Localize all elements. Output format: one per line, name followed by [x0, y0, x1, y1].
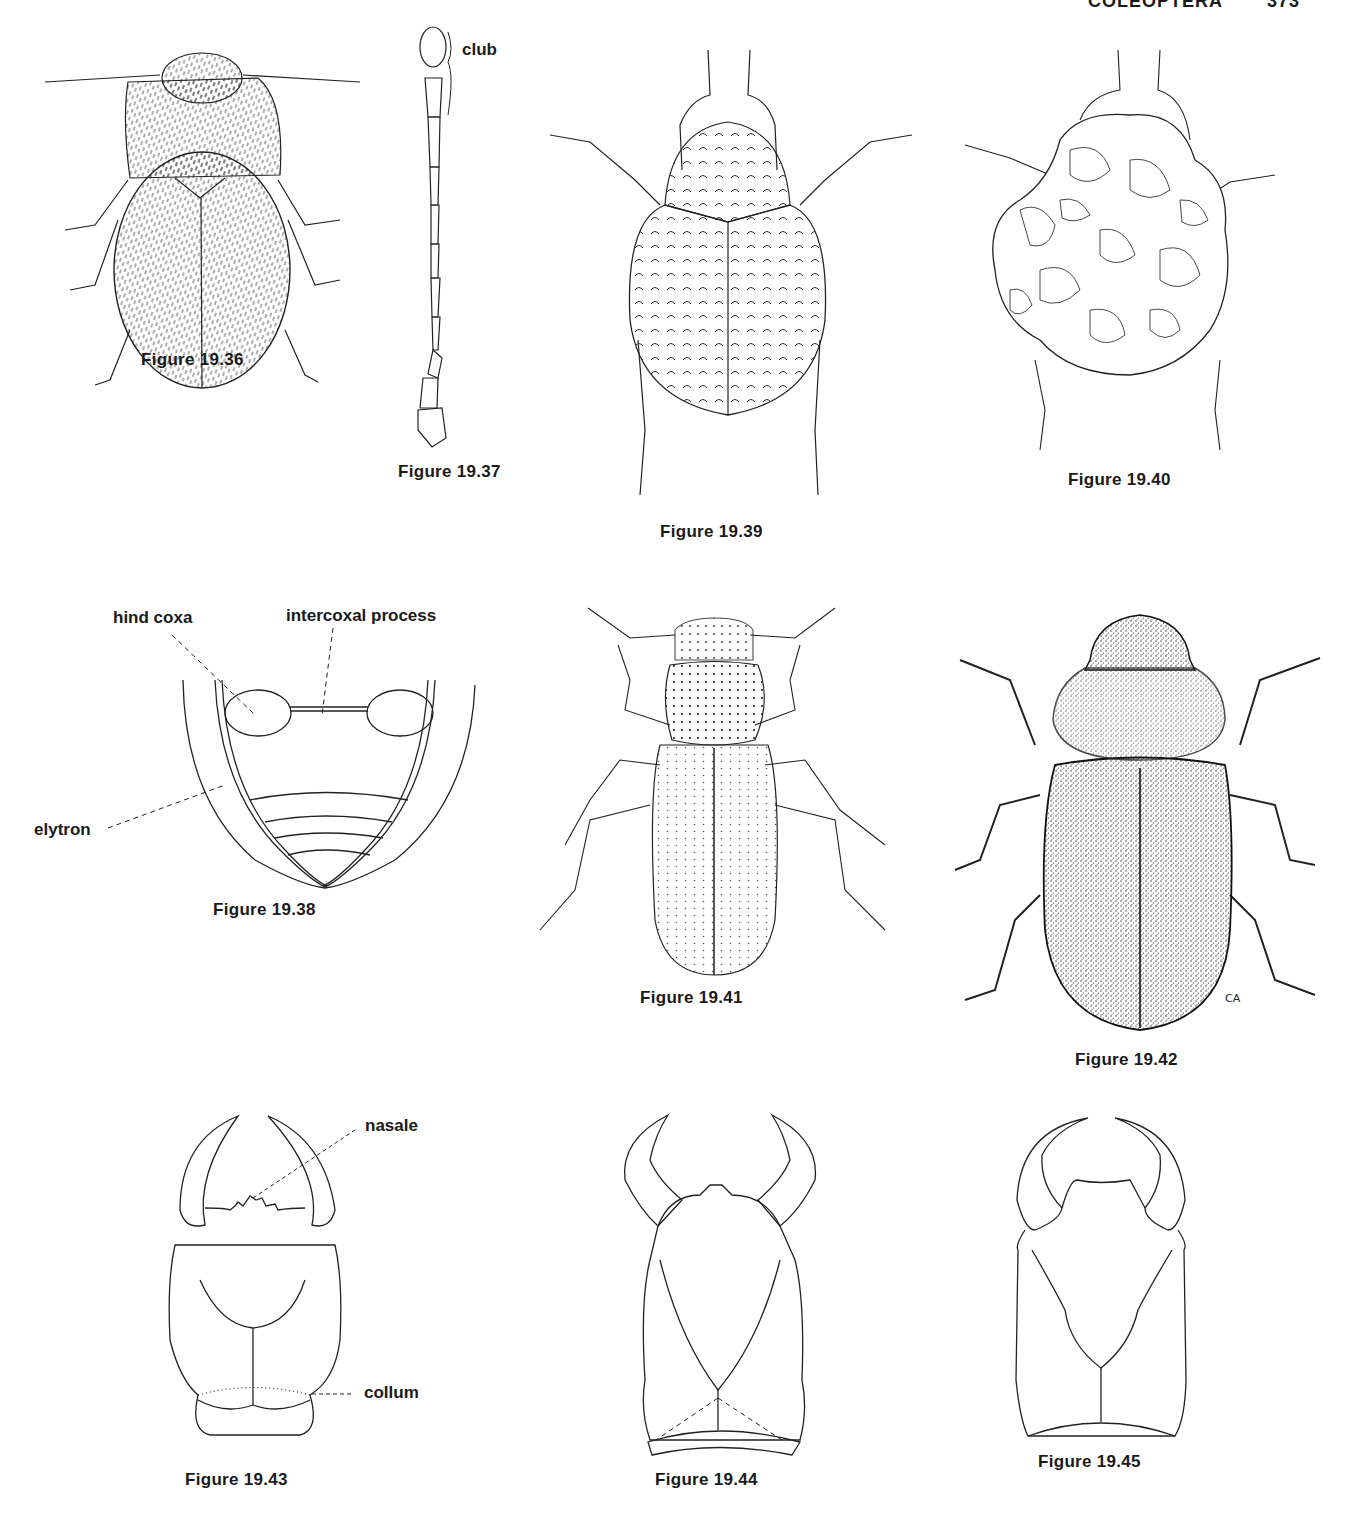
abdomen-ventral-illustration	[0, 590, 490, 940]
larval-head-variant-illustration	[560, 1100, 860, 1520]
figure-caption: Figure 19.40	[1068, 470, 1171, 490]
artist-signature: CA	[1225, 992, 1241, 1005]
label-intercoxal-process: intercoxal process	[286, 606, 436, 626]
figure-19-36: Figure 19.36	[0, 0, 400, 460]
debris-covered-beetle-illustration	[940, 30, 1280, 490]
figure-19-41: Figure 19.41	[510, 590, 940, 1050]
elongate-beetle-illustration	[510, 590, 940, 1050]
figure-19-42: CA Figure 19.42	[940, 590, 1340, 1080]
figure-19-37: club Figure 19.37	[390, 20, 540, 500]
figure-caption: Figure 19.43	[185, 1470, 288, 1490]
figure-caption: Figure 19.42	[1075, 1050, 1178, 1070]
hairy-beetle-illustration	[0, 0, 400, 460]
figure-caption: Figure 19.39	[660, 522, 763, 542]
label-collum: collum	[364, 1383, 419, 1403]
figure-caption: Figure 19.45	[1038, 1452, 1141, 1472]
antenna-illustration	[390, 20, 540, 500]
figure-caption: Figure 19.44	[655, 1470, 758, 1490]
label-nasale: nasale	[365, 1116, 418, 1136]
figure-19-43: nasale collum Figure 19.43	[140, 1100, 460, 1500]
running-head-title: COLEOPTERA	[1088, 0, 1223, 11]
figure-19-44: Figure 19.44	[560, 1100, 860, 1520]
figure-caption: Figure 19.38	[213, 900, 316, 920]
figure-caption: Figure 19.41	[640, 988, 743, 1008]
running-head: COLEOPTERA373	[1088, 0, 1300, 12]
figure-caption: Figure 19.36	[141, 350, 244, 370]
figure-19-38: hind coxa intercoxal process elytron Fig…	[0, 590, 490, 940]
figure-19-40: Figure 19.40	[940, 30, 1280, 490]
page-number: 373	[1267, 0, 1300, 11]
label-club: club	[462, 40, 497, 60]
larval-head-nasale-collum-illustration	[140, 1100, 460, 1500]
figure-19-39: Figure 19.39	[520, 30, 940, 550]
label-elytron: elytron	[34, 820, 91, 840]
figure-caption: Figure 19.37	[398, 462, 501, 482]
figure-19-45: Figure 19.45	[980, 1100, 1240, 1520]
label-hind-coxa: hind coxa	[113, 608, 192, 628]
stippled-beetle-illustration: CA	[940, 590, 1340, 1080]
punctate-beetle-illustration	[520, 30, 940, 550]
